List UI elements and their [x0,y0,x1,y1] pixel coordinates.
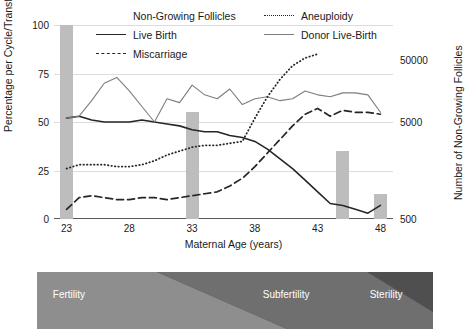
y-tick-label-left: 50 [38,117,49,128]
y-tick-label-left: 100 [32,20,49,31]
legend-item-non-growing-follicles: Non-Growing Follicles [96,10,264,22]
dashed-line-icon [96,48,126,59]
x-axis-label: Maternal Age (years) [0,238,467,250]
legend-item-aneuploidy: Aneuploidy [264,10,402,22]
strip-label-fertility: Fertility [53,289,85,300]
line-miscarriage [67,108,381,209]
y-tick-label-right: 500 [400,214,417,225]
x-tick-label: 48 [375,223,386,234]
y-axis-left-label: Percentage per Cycle/Transfer [2,0,14,132]
chart-legend: Non-Growing Follicles Aneuploidy Live Bi… [96,6,402,64]
y-tick-label-left: 25 [38,165,49,176]
legend-label: Miscarriage [133,48,187,60]
bar-swatch-icon [96,10,126,21]
y-tick-label-right: 50000 [400,54,428,65]
solid-line-icon [96,29,126,40]
line-live-birth [67,116,381,213]
legend-item-donor-live-birth: Donor Live-Birth [264,29,402,41]
line-donor-live-birth [67,77,381,122]
fertility-strip-graphic [37,272,433,329]
y-tick-label-left: 0 [43,214,49,225]
legend-item-miscarriage: Miscarriage [96,48,264,60]
figure-root: Percentage per Cycle/Transfer Number of … [0,0,467,334]
legend-item-live-birth: Live Birth [96,29,264,41]
dotted-line-icon [264,10,294,21]
legend-label: Donor Live-Birth [301,29,377,41]
fertility-stage-strip: FertilitySubfertilitySterility [37,272,433,329]
line-aneuploidy [67,54,318,168]
legend-label: Non-Growing Follicles [133,10,236,22]
thin-line-icon [264,29,294,40]
x-tick-label: 23 [61,223,72,234]
y-tick-label-right: 5000 [400,117,422,128]
strip-label-subfertility: Subfertility [263,289,310,300]
chart-panel: Percentage per Cycle/Transfer Number of … [0,0,467,258]
legend-label: Aneuploidy [301,10,353,22]
x-tick-label: 33 [187,223,198,234]
legend-label: Live Birth [133,29,177,41]
x-tick-label: 43 [312,223,323,234]
strip-label-sterility: Sterility [370,289,403,300]
y-tick-label-left: 75 [38,68,49,79]
x-tick-label: 38 [249,223,260,234]
x-tick-label: 28 [124,223,135,234]
y-axis-right-label: Number of Non-Growing Follicles [452,45,464,200]
